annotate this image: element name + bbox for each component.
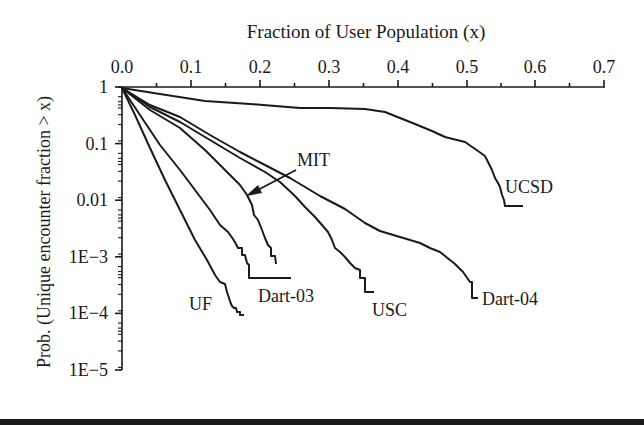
x-tick-label: 0.2 — [249, 57, 272, 77]
x-tick-label: 0.6 — [524, 57, 547, 77]
x-tick-label: 0.5 — [456, 57, 479, 77]
chart-svg: Fraction of User Population (x) 0.0 0.1 … — [0, 0, 644, 425]
x-axis — [118, 80, 605, 87]
x-tick-label: 0.4 — [387, 57, 410, 77]
chart-figure: Fraction of User Population (x) 0.0 0.1 … — [0, 0, 644, 425]
label-dart04: Dart-04 — [482, 289, 538, 309]
y-tick-label: 0.01 — [77, 190, 109, 210]
series-ucsd — [122, 88, 523, 206]
y-axis — [115, 87, 122, 370]
x-tick-labels: 0.0 0.1 0.2 0.3 0.4 0.5 0.6 0.7 — [111, 57, 616, 77]
x-tick-label: 0.7 — [593, 57, 616, 77]
x-tick-label: 0.3 — [318, 57, 341, 77]
series-uf — [122, 88, 244, 315]
y-tick-label: 1 — [99, 77, 108, 97]
x-axis-title: Fraction of User Population (x) — [247, 21, 486, 43]
series-dart03 — [122, 88, 291, 278]
series-labels: UCSD Dart-03 USC Dart-04 UF — [189, 177, 553, 320]
label-uf: UF — [189, 294, 212, 314]
y-tick-label: 1E−4 — [69, 303, 108, 323]
y-tick-label: 0.1 — [86, 134, 109, 154]
label-mit: MIT — [297, 150, 330, 170]
label-dart03: Dart-03 — [258, 286, 314, 306]
bottom-rule — [0, 419, 644, 425]
y-tick-label: 1E−5 — [69, 360, 108, 380]
x-tick-label: 0.1 — [180, 57, 203, 77]
x-tick-label: 0.0 — [111, 57, 134, 77]
label-ucsd: UCSD — [505, 177, 553, 197]
y-tick-label: 1E−3 — [69, 247, 108, 267]
arrow-head-icon — [246, 185, 262, 196]
series-curves — [122, 88, 523, 315]
series-mit — [122, 88, 276, 264]
y-axis-title: Prob. (Unique encounter fraction > x) — [34, 96, 55, 368]
series-usc — [122, 88, 374, 292]
arrow-icon — [254, 170, 296, 192]
y-tick-labels: 1 0.1 0.01 1E−3 1E−4 1E−5 — [69, 77, 108, 380]
label-usc: USC — [372, 300, 407, 320]
